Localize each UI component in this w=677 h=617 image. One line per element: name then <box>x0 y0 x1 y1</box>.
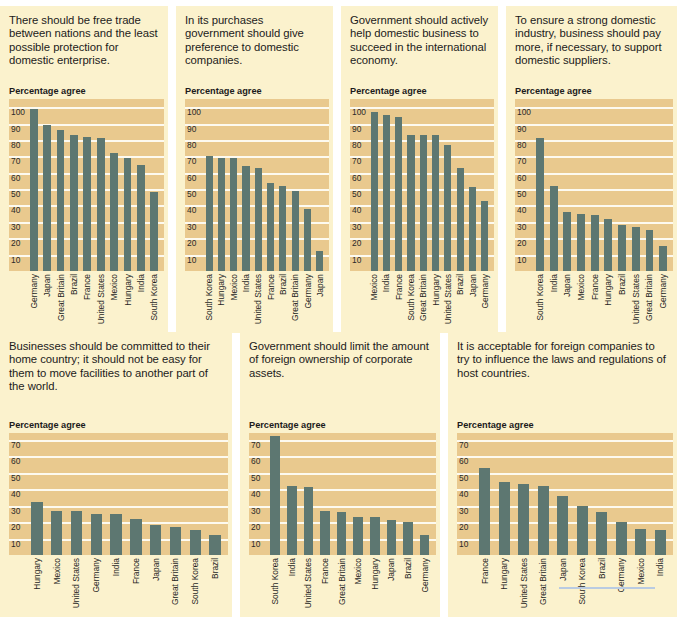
x-label-slot: France <box>81 271 94 333</box>
bar <box>57 130 65 271</box>
x-tick-label: Japan <box>43 274 51 297</box>
bar <box>292 191 299 271</box>
bar-slot <box>574 99 588 271</box>
panel-header: Government should limit the amount of fo… <box>240 332 440 414</box>
bar <box>616 522 627 555</box>
bar-slot <box>289 99 301 271</box>
y-tick-label: 50 <box>187 190 196 198</box>
x-tick-label: Mexico <box>110 274 118 301</box>
x-tick-label: France <box>132 558 140 584</box>
bar <box>43 125 51 271</box>
y-tick-label: 100 <box>517 108 531 116</box>
x-tick-label: Germany <box>481 274 489 308</box>
x-label-slot: Hungary <box>429 271 441 333</box>
bar-slot <box>148 99 161 271</box>
bar-slot <box>643 99 657 271</box>
bar-slot <box>629 99 643 271</box>
y-tick-label: 60 <box>517 174 526 182</box>
bar <box>403 522 413 555</box>
x-tick-label: Mexico <box>230 274 238 301</box>
y-tick-label: 90 <box>11 125 20 133</box>
x-label-slot: United States <box>629 271 643 333</box>
chart-panel: Government should limit the amount of fo… <box>240 332 440 617</box>
y-tick-label: 80 <box>352 141 361 149</box>
bar <box>190 530 201 555</box>
bar <box>124 158 132 271</box>
x-tick-label: Brazil <box>404 558 412 579</box>
x-tick-label: South Korea <box>578 558 586 605</box>
bar-slot <box>94 99 107 271</box>
x-axis-labels: HungaryMexicoUnited StatesGermanyIndiaFr… <box>9 555 228 617</box>
plot-canvas: 100908070605040302010 <box>9 99 164 271</box>
bar <box>407 135 414 271</box>
y-tick-label: 30 <box>459 507 468 515</box>
chart-row-bottom: Businesses should be committed to their … <box>0 332 677 617</box>
bar-slot <box>631 433 651 555</box>
y-tick-label: 30 <box>352 223 361 231</box>
x-label-slot: South Korea <box>573 555 593 617</box>
x-tick-label: United States <box>72 558 80 608</box>
x-label-slot: Brazil <box>454 271 466 333</box>
bar-slot <box>651 433 671 555</box>
bar <box>563 212 571 271</box>
bar <box>632 227 640 271</box>
x-tick-label: Brazil <box>211 558 219 579</box>
bar <box>550 186 558 271</box>
bar-slot <box>454 99 466 271</box>
bar <box>170 527 181 555</box>
y-tick-label: 20 <box>352 239 361 247</box>
bar <box>536 138 544 271</box>
y-tick-label: 60 <box>459 457 468 465</box>
bar <box>387 520 397 555</box>
bar <box>83 137 91 271</box>
plot-canvas: 70605040302010 <box>9 433 228 555</box>
x-tick-label: Brazil <box>598 558 606 579</box>
bar-slot <box>333 433 350 555</box>
x-label-slot: Mexico <box>631 555 651 617</box>
plot-canvas: 100908070605040302010 <box>515 99 673 271</box>
y-tick-label: 10 <box>11 256 20 264</box>
bar <box>267 183 274 271</box>
bar-slot <box>560 99 574 271</box>
chart-panel: To ensure a strong domestic industry, bu… <box>506 6 677 333</box>
y-tick-label: 30 <box>11 223 20 231</box>
chart-title: There should be free trade between natio… <box>9 14 159 68</box>
bar <box>304 209 311 271</box>
bar-slot <box>277 99 289 271</box>
y-tick-label: 80 <box>517 141 526 149</box>
panel-header: There should be free trade between natio… <box>0 6 168 80</box>
y-axis-label: Percentage agree <box>176 86 333 96</box>
bar <box>137 165 145 271</box>
bar <box>469 187 476 271</box>
x-tick-label: India <box>242 274 250 292</box>
x-label-slot: Mexico <box>107 271 120 333</box>
x-label-slot: Great Britain <box>54 271 67 333</box>
y-tick-label: 40 <box>352 206 361 214</box>
x-label-slot: Germany <box>612 555 632 617</box>
y-tick-label: 30 <box>251 507 260 515</box>
bar <box>655 530 666 555</box>
bar-slot <box>405 99 417 271</box>
x-label-slot: Brazil <box>205 555 225 617</box>
bar-slot <box>300 433 317 555</box>
bar-slot <box>205 433 225 555</box>
chart-title: It is acceptable for foreign companies t… <box>457 340 668 380</box>
x-tick-label: India <box>137 274 145 292</box>
x-axis-labels: South KoreaHungaryMexicoIndiaUnited Stat… <box>185 271 329 333</box>
x-tick-label: Japan <box>387 558 395 581</box>
x-tick-label: Mexico <box>354 558 362 585</box>
y-tick-label: 20 <box>11 239 20 247</box>
bar <box>150 525 161 555</box>
bar <box>110 514 121 555</box>
bar <box>209 535 220 555</box>
x-tick-label: Hungary <box>33 558 41 590</box>
x-label-slot: Germany <box>86 555 106 617</box>
bar-slot <box>429 99 441 271</box>
x-axis-labels: MexicoIndiaFranceSouth KoreaGreat Britai… <box>350 271 494 333</box>
x-label-slot: Japan <box>146 555 166 617</box>
y-tick-label: 50 <box>251 474 260 482</box>
chart-panel: It is acceptable for foreign companies t… <box>448 332 677 617</box>
y-axis-label: Percentage agree <box>506 86 677 96</box>
bar <box>591 215 599 271</box>
x-label-slot: United States <box>94 271 107 333</box>
